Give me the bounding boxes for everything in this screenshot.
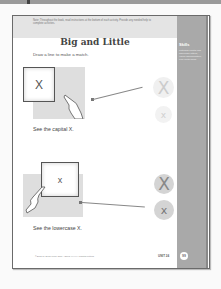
- activity-1-choice-capital[interactable]: X: [153, 77, 174, 98]
- activity-2-choice-lowercase[interactable]: x: [154, 200, 174, 220]
- activity-2-choice-capital[interactable]: X: [154, 174, 174, 194]
- toolbar-handle[interactable]: [27, 0, 30, 4]
- activity-2-caption: See the lowercase X.: [33, 225, 82, 231]
- page-title: Big and Little: [13, 37, 177, 47]
- sidebar-title: Skills: [179, 42, 189, 47]
- activity-1-caption: See the capital X.: [33, 126, 74, 132]
- instruction: Draw a line to make a match.: [33, 52, 89, 57]
- activity-1-match-line: [93, 87, 143, 100]
- page-number: 99: [180, 252, 188, 260]
- activity-2-match-line: [82, 202, 145, 207]
- copyright: ©2005 by Evan-Moor Corp. • EMC XXXX • Ca…: [35, 255, 94, 257]
- skills-sidebar: Skills Matching capital and lowercase le…: [177, 16, 208, 268]
- viewer-toolbar: [0, 0, 221, 4]
- pointing-hand-icon: [25, 186, 47, 214]
- activity-1-letter-card: X: [23, 67, 55, 102]
- worksheet-page: Note: Throughout the book, read instruct…: [12, 15, 210, 269]
- pointing-hand-icon: [63, 93, 87, 119]
- activity-1-choice-lowercase[interactable]: x: [155, 106, 172, 123]
- unit-label: UNIT 24: [158, 254, 169, 258]
- sidebar-text: Matching capital and lowercase letters; …: [179, 49, 203, 61]
- header-note: Note: Throughout the book, read instruct…: [33, 19, 153, 25]
